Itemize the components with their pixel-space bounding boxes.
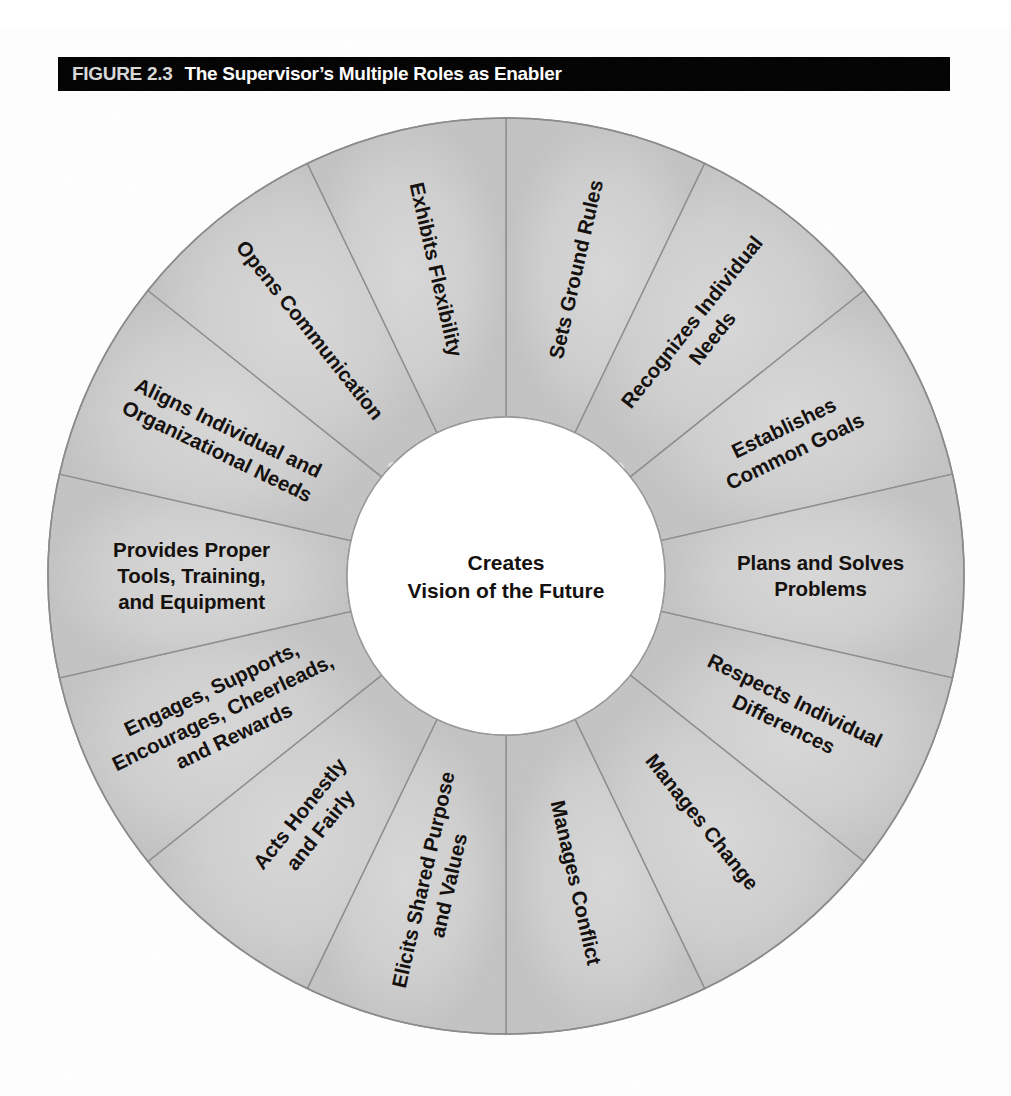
wheel-label-line: Tools, Training, bbox=[117, 564, 265, 587]
wheel-hub bbox=[347, 417, 665, 735]
enabler-roles-wheel: CHARACTERISTICS SUCCESS Creates Vision o… bbox=[0, 0, 1011, 1096]
wheel-label-line: Plans and Solves bbox=[737, 551, 904, 574]
hub-label-line-1: Creates bbox=[467, 551, 544, 574]
hub-label-line-2: Vision of the Future bbox=[408, 579, 605, 602]
wheel-svg: CHARACTERISTICS SUCCESS Creates Vision o… bbox=[0, 0, 1011, 1096]
wheel-label-line: and Equipment bbox=[118, 590, 265, 613]
wheel-label-line: Provides Proper bbox=[113, 538, 270, 561]
wheel-label-provides-proper-tools-training-and-equipment: Provides ProperTools, Training,and Equip… bbox=[113, 538, 270, 613]
wheel-label-line: Problems bbox=[774, 577, 867, 600]
